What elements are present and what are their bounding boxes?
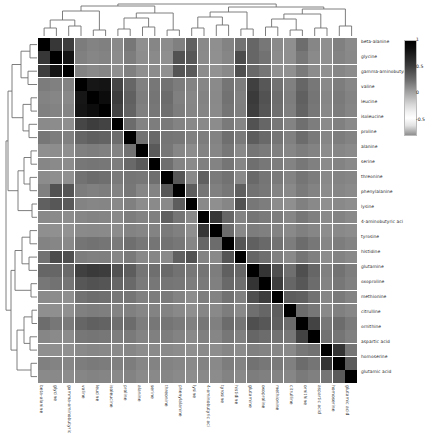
heatmap-cell[interactable]	[284, 344, 296, 357]
heatmap-cell[interactable]	[222, 158, 234, 171]
heatmap-cell[interactable]	[149, 78, 161, 91]
heatmap-cell[interactable]	[186, 65, 198, 78]
heatmap-cell[interactable]	[308, 171, 320, 184]
heatmap-cell[interactable]	[63, 198, 75, 211]
heatmap-cell[interactable]	[296, 277, 308, 290]
heatmap-cell[interactable]	[222, 144, 234, 157]
heatmap-cell[interactable]	[75, 357, 87, 370]
heatmap-cell[interactable]	[124, 291, 136, 304]
heatmap-cell[interactable]	[186, 237, 198, 250]
heatmap-cell[interactable]	[99, 144, 111, 157]
heatmap-cell[interactable]	[136, 78, 148, 91]
heatmap-cell[interactable]	[321, 78, 333, 91]
heatmap-cell[interactable]	[50, 65, 62, 78]
heatmap-cell[interactable]	[247, 144, 259, 157]
heatmap-cell[interactable]	[284, 144, 296, 157]
heatmap-cell[interactable]	[198, 171, 210, 184]
heatmap-cell[interactable]	[259, 211, 271, 224]
heatmap-cell[interactable]	[186, 370, 198, 383]
heatmap-cell[interactable]	[112, 51, 124, 64]
heatmap-cell[interactable]	[296, 144, 308, 157]
heatmap-cell[interactable]	[284, 264, 296, 277]
heatmap-cell[interactable]	[272, 184, 284, 197]
heatmap-cell[interactable]	[308, 158, 320, 171]
heatmap-cell[interactable]	[284, 198, 296, 211]
heatmap-cell[interactable]	[173, 224, 185, 237]
heatmap-cell[interactable]	[136, 370, 148, 383]
heatmap-cell[interactable]	[284, 291, 296, 304]
heatmap-cell[interactable]	[321, 330, 333, 343]
heatmap-cell[interactable]	[222, 91, 234, 104]
heatmap-cell[interactable]	[333, 184, 345, 197]
heatmap-cell[interactable]	[247, 304, 259, 317]
heatmap-cell[interactable]	[63, 291, 75, 304]
heatmap-cell[interactable]	[186, 330, 198, 343]
heatmap-cell[interactable]	[345, 198, 357, 211]
heatmap-cell[interactable]	[259, 51, 271, 64]
heatmap-cell[interactable]	[235, 317, 247, 330]
heatmap-cell[interactable]	[124, 144, 136, 157]
heatmap-cell[interactable]	[161, 144, 173, 157]
heatmap-cell[interactable]	[124, 51, 136, 64]
heatmap-cell[interactable]	[149, 184, 161, 197]
heatmap-cell[interactable]	[161, 118, 173, 131]
heatmap-cell[interactable]	[272, 211, 284, 224]
heatmap-cell[interactable]	[296, 158, 308, 171]
heatmap-cell[interactable]	[87, 211, 99, 224]
heatmap-cell[interactable]	[149, 171, 161, 184]
heatmap-cell[interactable]	[161, 251, 173, 264]
heatmap-cell[interactable]	[38, 65, 50, 78]
heatmap-cell[interactable]	[247, 184, 259, 197]
heatmap-cell[interactable]	[87, 38, 99, 51]
heatmap-cell[interactable]	[124, 184, 136, 197]
heatmap-cell[interactable]	[308, 91, 320, 104]
heatmap-cell[interactable]	[50, 251, 62, 264]
heatmap-cell[interactable]	[345, 78, 357, 91]
heatmap-cell[interactable]	[50, 317, 62, 330]
heatmap-cell[interactable]	[210, 198, 222, 211]
heatmap-cell[interactable]	[308, 251, 320, 264]
heatmap-cell[interactable]	[272, 65, 284, 78]
heatmap-cell[interactable]	[333, 65, 345, 78]
heatmap-cell[interactable]	[198, 277, 210, 290]
heatmap-cell[interactable]	[296, 357, 308, 370]
heatmap-cell[interactable]	[173, 211, 185, 224]
heatmap-cell[interactable]	[161, 51, 173, 64]
heatmap-grid[interactable]	[38, 38, 357, 383]
heatmap-cell[interactable]	[272, 131, 284, 144]
heatmap-cell[interactable]	[173, 144, 185, 157]
heatmap-cell[interactable]	[161, 224, 173, 237]
heatmap-cell[interactable]	[222, 291, 234, 304]
heatmap-cell[interactable]	[235, 330, 247, 343]
heatmap-cell[interactable]	[333, 317, 345, 330]
heatmap-cell[interactable]	[38, 118, 50, 131]
heatmap-cell[interactable]	[99, 171, 111, 184]
heatmap-cell[interactable]	[149, 344, 161, 357]
heatmap-cell[interactable]	[345, 224, 357, 237]
heatmap-cell[interactable]	[321, 264, 333, 277]
heatmap-cell[interactable]	[321, 118, 333, 131]
heatmap-cell[interactable]	[149, 224, 161, 237]
heatmap-cell[interactable]	[136, 118, 148, 131]
heatmap-cell[interactable]	[38, 131, 50, 144]
heatmap-cell[interactable]	[272, 198, 284, 211]
heatmap-cell[interactable]	[149, 251, 161, 264]
heatmap-cell[interactable]	[99, 251, 111, 264]
heatmap-cell[interactable]	[173, 104, 185, 117]
heatmap-cell[interactable]	[63, 78, 75, 91]
heatmap-cell[interactable]	[284, 251, 296, 264]
heatmap-cell[interactable]	[333, 224, 345, 237]
heatmap-cell[interactable]	[247, 91, 259, 104]
heatmap-cell[interactable]	[259, 131, 271, 144]
heatmap-cell[interactable]	[186, 277, 198, 290]
heatmap-cell[interactable]	[50, 158, 62, 171]
heatmap-cell[interactable]	[222, 198, 234, 211]
heatmap-cell[interactable]	[296, 330, 308, 343]
heatmap-cell[interactable]	[124, 171, 136, 184]
heatmap-cell[interactable]	[87, 78, 99, 91]
heatmap-cell[interactable]	[112, 118, 124, 131]
heatmap-cell[interactable]	[63, 370, 75, 383]
heatmap-cell[interactable]	[63, 51, 75, 64]
heatmap-cell[interactable]	[198, 357, 210, 370]
heatmap-cell[interactable]	[210, 104, 222, 117]
